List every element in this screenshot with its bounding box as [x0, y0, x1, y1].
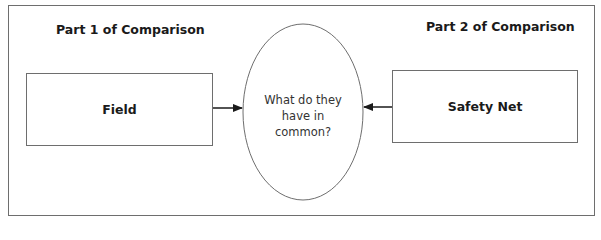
- common-question-line1: What do they: [248, 92, 358, 108]
- common-question-line2: have in: [248, 108, 358, 124]
- common-question-line3: common?: [248, 124, 358, 140]
- common-question: What do they have in common?: [248, 92, 358, 140]
